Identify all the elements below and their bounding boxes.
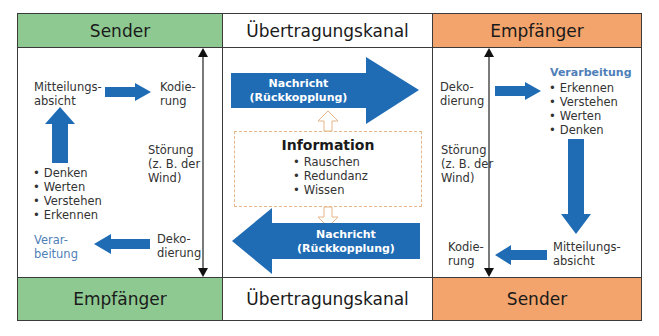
header-receiver: Empfänger (432, 13, 642, 48)
right-encoding-label: Kodie- rung (448, 240, 484, 268)
information-item: Redundanz (293, 169, 368, 183)
header-receiver-label: Empfänger (490, 21, 584, 41)
right-step: Denken (549, 123, 618, 137)
left-intent-label: Mitteilungs- absicht (34, 80, 102, 108)
right-step: Verstehen (549, 95, 618, 109)
footer-receiver: Empfänger (17, 277, 222, 321)
header-sender: Sender (17, 13, 222, 48)
information-item: Wissen (293, 183, 368, 197)
message-top-label: Nachricht (Rückkopplung) (231, 77, 366, 105)
header-channel-label: Übertragungskanal (246, 21, 409, 41)
information-title: Information (234, 137, 422, 153)
left-step: Verstehen (33, 194, 102, 208)
left-step: Werten (33, 180, 102, 194)
left-processing-label: Verar- beitung (34, 233, 78, 261)
arrow-left-icon (495, 245, 547, 265)
right-processing-title: Verarbeitung (550, 66, 632, 80)
left-encoding-label: Kodie- rung (160, 80, 196, 108)
footer-channel-label: Übertragungskanal (246, 289, 409, 309)
arrow-down-icon (561, 139, 591, 234)
left-step: Denken (33, 166, 102, 180)
information-list: Rauschen Redundanz Wissen (293, 155, 368, 197)
footer-sender: Sender (432, 277, 642, 321)
footer-sender-label: Sender (507, 289, 567, 309)
arrow-right-icon (105, 83, 151, 101)
footer-receiver-label: Empfänger (73, 289, 167, 309)
arrow-right-icon (495, 82, 541, 100)
right-step: Erkennen (549, 81, 618, 95)
header-sender-label: Sender (90, 21, 150, 41)
right-step: Werten (549, 109, 618, 123)
message-bottom-label: Nachricht (Rückkopplung) (272, 228, 420, 256)
left-noise-label: Störung (z. B. der Wind) (148, 143, 200, 185)
footer-channel: Übertragungskanal (222, 277, 432, 321)
right-decoding-label: Deko- dierung (440, 80, 484, 108)
header-channel: Übertragungskanal (222, 13, 432, 48)
left-steps-list: Denken Werten Verstehen Erkennen (33, 166, 102, 222)
arrow-up-icon (45, 107, 75, 163)
arrow-left-icon (94, 234, 150, 254)
right-intent-label: Mitteilungs- absicht (553, 240, 621, 268)
hollow-arrow-up-icon (316, 110, 340, 132)
column-divider-right (432, 48, 433, 277)
left-decoding-label: Deko- dierung (157, 232, 201, 260)
right-noise-label: Störung (z. B. der Wind) (441, 143, 493, 185)
left-step: Erkennen (33, 208, 102, 222)
right-steps-list: Erkennen Verstehen Werten Denken (549, 81, 618, 137)
column-divider-left (222, 48, 223, 277)
information-item: Rauschen (293, 155, 368, 169)
